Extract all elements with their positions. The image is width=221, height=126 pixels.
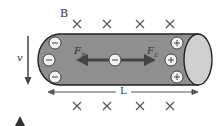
- velocity-label: v: [17, 52, 23, 63]
- triangle-marker-icon: [15, 116, 25, 126]
- magnetic-field-crosses-bottom: [73, 102, 174, 110]
- force-left-main: F: [74, 45, 81, 56]
- force-left-label: FB: [74, 45, 85, 58]
- moving-rod-diagram: [0, 0, 221, 126]
- length-label: L: [120, 85, 127, 96]
- rod-end-cap: [184, 34, 212, 85]
- field-label: B: [60, 7, 68, 20]
- magnetic-field-crosses-top: [73, 20, 174, 28]
- force-right-label: FE: [147, 45, 158, 58]
- force-right-sub: E: [154, 51, 158, 58]
- force-left-sub: B: [81, 51, 85, 58]
- force-right-main: F: [147, 45, 154, 56]
- velocity-arrow: [25, 36, 32, 85]
